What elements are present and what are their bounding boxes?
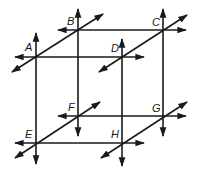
point-label-c: C: [152, 16, 160, 28]
point-label-a: A: [24, 41, 32, 53]
point-label-f: F: [68, 101, 76, 113]
point-label-d: D: [111, 42, 119, 54]
point-label-e: E: [25, 128, 33, 140]
cube-lines-diagram: A B C D E F G H: [0, 0, 197, 178]
point-label-g: G: [152, 102, 161, 114]
point-label-b: B: [67, 15, 74, 27]
point-label-h: H: [111, 128, 119, 140]
